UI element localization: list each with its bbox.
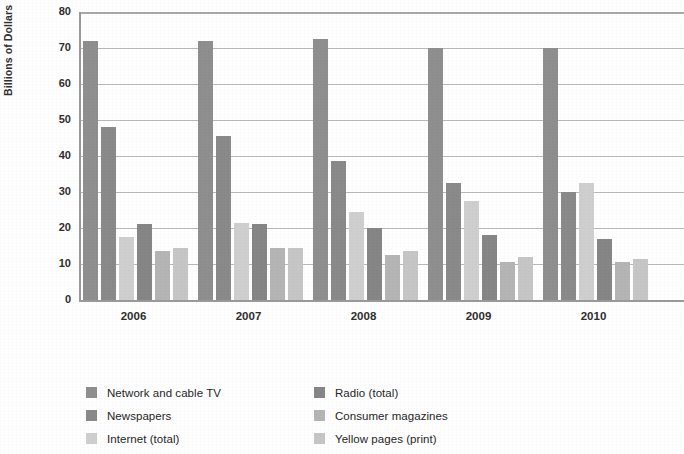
bar — [597, 239, 612, 300]
bar — [313, 39, 328, 300]
chart-legend: Network and cable TVRadio (total)Newspap… — [86, 381, 556, 450]
legend-label: Internet (total) — [107, 433, 179, 445]
bar — [518, 257, 533, 300]
bar — [331, 161, 346, 300]
y-axis-tick-label: 80 — [27, 5, 71, 17]
legend-label: Radio (total) — [335, 387, 398, 399]
x-axis-tick-label: 2010 — [564, 310, 624, 322]
bar — [101, 127, 116, 300]
bar — [288, 248, 303, 300]
bar — [270, 248, 285, 300]
legend-swatch-icon — [314, 387, 325, 398]
bar — [403, 251, 418, 300]
bar — [543, 48, 558, 300]
y-axis-tick-label: 50 — [27, 113, 71, 125]
legend-swatch-icon — [314, 410, 325, 421]
legend-swatch-icon — [86, 433, 97, 444]
bar — [234, 223, 249, 300]
bar — [349, 212, 364, 300]
bar — [385, 255, 400, 300]
y-axis-title: Billions of Dollars — [2, 0, 14, 96]
bar — [428, 48, 443, 300]
legend-swatch-icon — [86, 410, 97, 421]
legend-label: Yellow pages (print) — [335, 433, 437, 445]
bar — [482, 235, 497, 300]
legend-label: Network and cable TV — [107, 387, 221, 399]
y-axis-tick-label: 10 — [27, 257, 71, 269]
bar — [137, 224, 152, 300]
bar — [198, 41, 213, 300]
bar — [500, 262, 515, 300]
legend-swatch-icon — [314, 433, 325, 444]
bar — [367, 228, 382, 300]
legend-item: Newspapers — [86, 404, 308, 427]
y-axis-tick-label: 0 — [27, 293, 71, 305]
bar — [615, 262, 630, 300]
bar — [173, 248, 188, 300]
bar — [446, 183, 461, 300]
bar — [252, 224, 267, 300]
y-axis-tick-label: 30 — [27, 185, 71, 197]
y-axis-tick-label: 70 — [27, 41, 71, 53]
legend-label: Newspapers — [107, 410, 171, 422]
bar-group — [543, 12, 651, 300]
bar — [83, 41, 98, 300]
legend-swatch-icon — [86, 387, 97, 398]
legend-item: Radio (total) — [314, 381, 536, 404]
bar — [119, 237, 134, 300]
bar — [464, 201, 479, 300]
bar — [633, 259, 648, 300]
bar — [216, 136, 231, 300]
bar-group — [428, 12, 536, 300]
y-axis-tick-label: 20 — [27, 221, 71, 233]
bar-group — [198, 12, 306, 300]
x-axis-tick-label: 2009 — [449, 310, 509, 322]
plot-area — [79, 12, 684, 300]
x-axis-tick-label: 2007 — [219, 310, 279, 322]
bar — [155, 251, 170, 300]
x-axis-line — [79, 300, 684, 302]
x-axis-tick-label: 2008 — [334, 310, 394, 322]
bar-group — [313, 12, 421, 300]
x-axis-tick-label: 2006 — [104, 310, 164, 322]
bar-group — [83, 12, 191, 300]
bar — [561, 192, 576, 300]
y-axis-tick-label: 40 — [27, 149, 71, 161]
legend-item: Yellow pages (print) — [314, 427, 536, 450]
y-axis-tick-label: 60 — [27, 77, 71, 89]
legend-item: Consumer magazines — [314, 404, 536, 427]
legend-item: Network and cable TV — [86, 381, 308, 404]
legend-item: Internet (total) — [86, 427, 308, 450]
bar — [579, 183, 594, 300]
legend-label: Consumer magazines — [335, 410, 448, 422]
